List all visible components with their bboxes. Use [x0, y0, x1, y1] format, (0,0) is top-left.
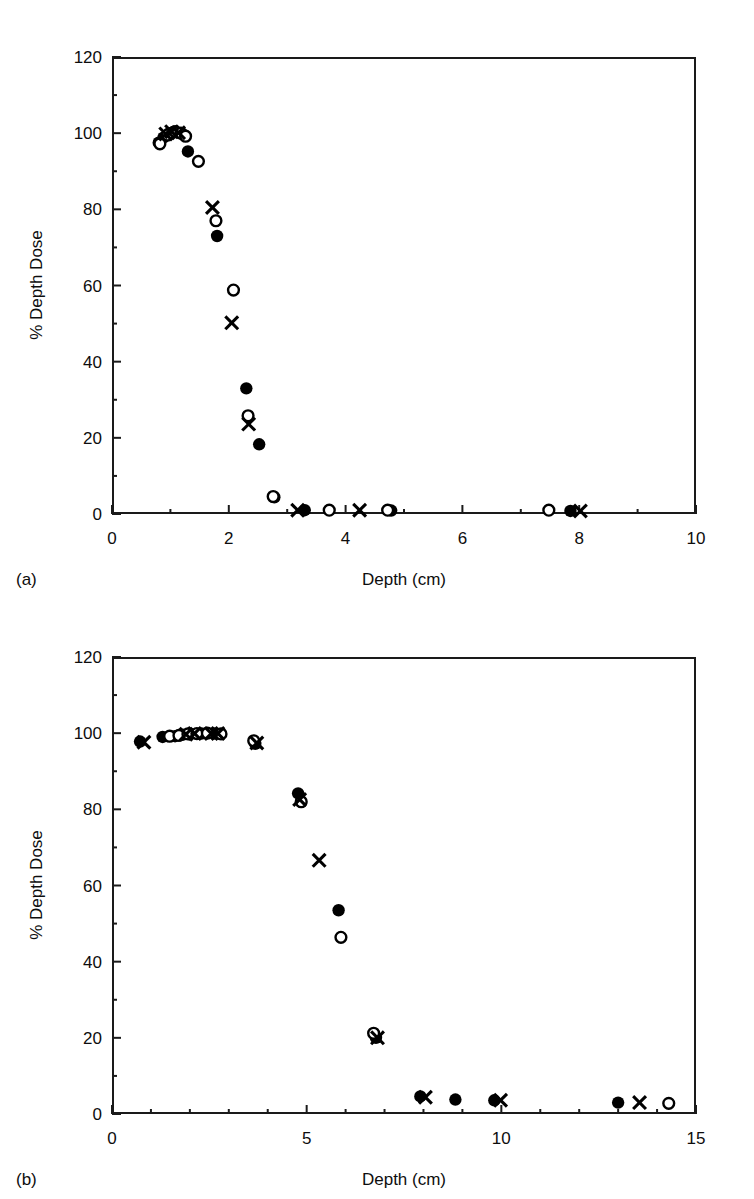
x-tick-label: 10 — [492, 1130, 511, 1147]
series-open-circle — [164, 728, 674, 1109]
y-tick-label: 100 — [52, 125, 102, 142]
y-axis-title-b: % Depth Dose — [27, 785, 47, 985]
y-tick-label: 20 — [52, 429, 102, 446]
y-tick-label: 0 — [52, 506, 102, 523]
panel-label-a: (a) — [16, 570, 37, 590]
y-tick-label: 120 — [52, 49, 102, 66]
x-tick-label: 5 — [302, 1130, 311, 1147]
x-tick-label: 8 — [574, 530, 583, 547]
y-tick-label: 60 — [52, 877, 102, 894]
plot-canvas-a — [0, 0, 754, 600]
x-tick-label: 0 — [107, 1130, 116, 1147]
x-tick-label: 10 — [687, 530, 706, 547]
x-axis-title-a: Depth (cm) — [294, 570, 514, 590]
y-tick-label: 80 — [52, 201, 102, 218]
x-axis-title-b: Depth (cm) — [294, 1170, 514, 1190]
series-filled-circle — [153, 126, 577, 517]
panel-label-b: (b) — [16, 1170, 37, 1190]
x-tick-label: 2 — [224, 530, 233, 547]
depth-dose-figure: 0204060801001200246810 % Depth Dose Dept… — [0, 0, 754, 1199]
y-axis-title-a: % Depth Dose — [27, 185, 47, 385]
y-tick-label: 0 — [52, 1106, 102, 1123]
y-tick-label: 20 — [52, 1029, 102, 1046]
series-open-circle — [154, 126, 554, 515]
series-cross — [159, 125, 586, 517]
plot-canvas-b — [0, 600, 754, 1199]
x-tick-label: 15 — [687, 1130, 706, 1147]
series-cross — [138, 727, 646, 1109]
y-tick-label: 40 — [52, 353, 102, 370]
panel-b: 020406080100120051015 % Depth Dose Depth… — [0, 600, 754, 1199]
y-tick-label: 80 — [52, 801, 102, 818]
x-tick-label: 4 — [341, 530, 350, 547]
x-tick-label: 0 — [107, 530, 116, 547]
x-tick-label: 6 — [458, 530, 467, 547]
y-tick-label: 60 — [52, 277, 102, 294]
panel-a: 0204060801001200246810 % Depth Dose Dept… — [0, 0, 754, 600]
y-tick-label: 40 — [52, 953, 102, 970]
y-tick-label: 120 — [52, 649, 102, 666]
y-tick-label: 100 — [52, 725, 102, 742]
series-filled-circle — [134, 727, 625, 1108]
